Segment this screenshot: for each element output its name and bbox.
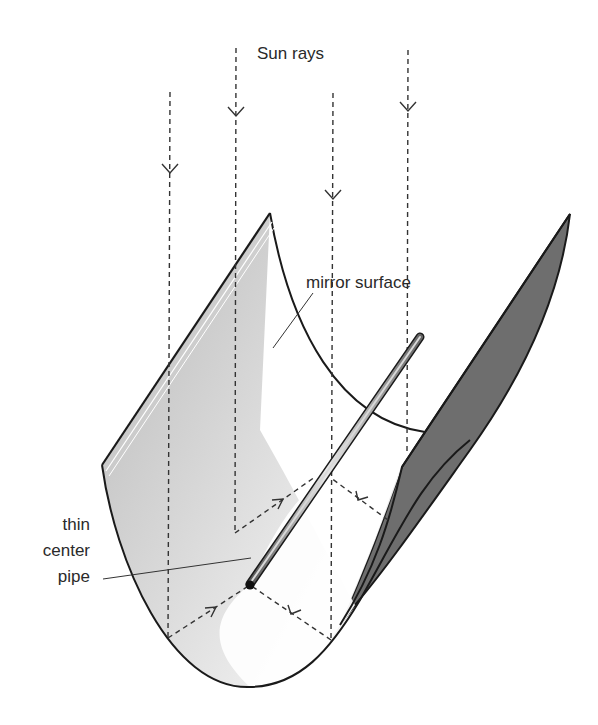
pipe-label-line1: thin	[0, 512, 90, 538]
solar-trough-diagram: Sun rays mirror surface thin center pipe	[0, 0, 598, 725]
mirror-surface-label: mirror surface	[306, 274, 411, 291]
pipe-label-line2: center	[0, 538, 90, 564]
pipe-label: thin center pipe	[0, 512, 90, 590]
ray-arrow-icons	[162, 102, 416, 199]
mirror-back-edge	[270, 213, 425, 432]
diagram-graphic	[0, 0, 598, 725]
pipe-label-line3: pipe	[0, 564, 90, 590]
sun-rays-label: Sun rays	[257, 45, 324, 62]
